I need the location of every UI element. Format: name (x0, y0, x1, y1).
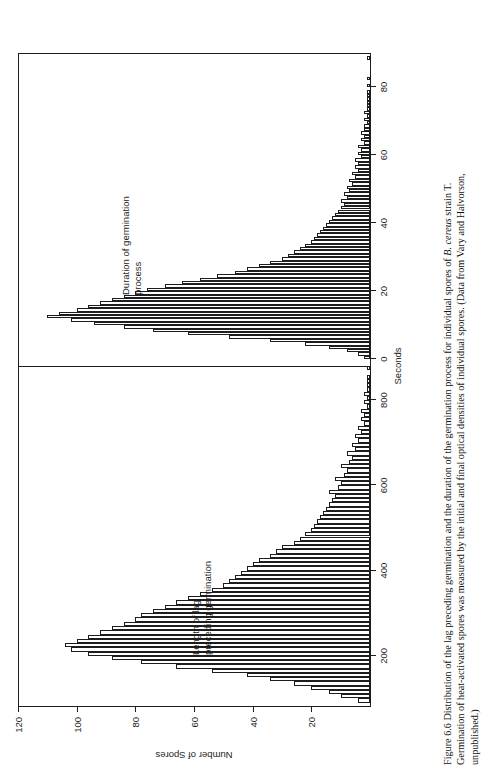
histogram-bar (326, 223, 370, 226)
histogram-bar (314, 524, 370, 528)
histogram-bar (112, 656, 370, 660)
x-tick (371, 655, 376, 656)
y-tick (18, 707, 19, 712)
histogram-bar (355, 434, 370, 438)
histogram-bar (276, 549, 370, 553)
x-tick-label: 800 (378, 392, 389, 408)
histogram-bar (200, 592, 370, 596)
histogram-bar (361, 155, 370, 158)
panel-duration-bars (18, 53, 370, 366)
histogram-bar (347, 349, 370, 352)
histogram-bar (311, 528, 370, 532)
histogram-bar (320, 230, 370, 233)
histogram-bar (305, 532, 370, 536)
x-tick-label: 80 (378, 82, 389, 93)
histogram-bar (326, 507, 370, 511)
histogram-bar (229, 335, 370, 338)
histogram-bar (323, 511, 370, 515)
histogram-bar (311, 240, 370, 243)
histogram-bar (329, 502, 370, 506)
histogram-bar (141, 660, 370, 664)
histogram-bar (358, 169, 370, 172)
histogram-bar (344, 473, 370, 477)
histogram-bar (112, 626, 370, 630)
histogram-bar (124, 622, 370, 626)
panel-duration (18, 53, 370, 366)
x-tick (371, 399, 376, 400)
y-tick (194, 707, 195, 712)
histogram-bar (358, 145, 370, 148)
histogram-bar (247, 566, 370, 570)
histogram-bar (94, 322, 370, 325)
histogram-bar (332, 216, 370, 219)
histogram-bar (361, 417, 370, 421)
histogram-bar (259, 264, 370, 267)
histogram-bar (311, 686, 370, 690)
histogram-bar (124, 295, 370, 298)
histogram-bar (347, 451, 370, 455)
histogram-bar (347, 468, 370, 472)
histogram-bar (317, 233, 370, 236)
histogram-bar (305, 244, 370, 247)
histogram-bar (355, 447, 370, 451)
histogram-bar (112, 298, 370, 301)
histogram-bar (352, 456, 370, 460)
histogram-bar (335, 494, 370, 498)
panel-lag-title: Length of lag preceding germination (190, 561, 214, 655)
histogram-bar (358, 352, 370, 355)
plot-area: 20040060080002040608020406080100120 Numb… (0, 0, 430, 765)
x-axis-line (370, 53, 371, 707)
histogram-bar (347, 196, 370, 199)
histogram-bar (341, 694, 370, 698)
histogram-bar (352, 443, 370, 447)
caption-line-2: Germination of heat-activated spores was… (454, 13, 467, 765)
histogram-bar (71, 318, 370, 321)
histogram-bar (300, 247, 370, 250)
histogram-bar (153, 329, 370, 332)
histogram-bar (323, 227, 370, 230)
histogram-bar (147, 288, 370, 291)
histogram-bar (77, 639, 370, 643)
y-tick (77, 707, 78, 712)
histogram-bar (188, 596, 370, 600)
histogram-bar (314, 237, 370, 240)
y-tick (253, 707, 254, 712)
panel-duration-title: Duration of germination process (120, 196, 144, 295)
histogram-bar (355, 158, 370, 161)
histogram-bar (352, 172, 370, 175)
histogram-bar (335, 477, 370, 481)
caption-line-3: unpublished.) (468, 13, 481, 765)
histogram-bar (349, 460, 370, 464)
y-tick-label: 100 (71, 717, 82, 733)
histogram-bar (341, 481, 370, 485)
histogram-bar (212, 669, 370, 673)
caption-line-1: Figure 6.6 Distribution of the lag prece… (441, 13, 454, 765)
histogram-bar (329, 690, 370, 694)
x-tick-label: 20 (378, 286, 389, 297)
histogram-bar (247, 267, 370, 270)
histogram-bar (153, 609, 370, 613)
y-tick-label: 40 (247, 717, 258, 728)
histogram-bar (355, 176, 370, 179)
histogram-bar (88, 635, 370, 639)
histogram-bar (288, 254, 370, 257)
x-tick-label: 40 (378, 218, 389, 229)
x-tick (371, 570, 376, 571)
histogram-bar (182, 281, 370, 284)
histogram-bar (355, 165, 370, 168)
histogram-bar (344, 193, 370, 196)
x-tick (371, 484, 376, 485)
histogram-bar (77, 308, 370, 311)
panel-duration-title-line1: Duration of germination (120, 196, 132, 295)
histogram-bar (235, 271, 370, 274)
x-axis-title: Seconds (392, 348, 403, 385)
histogram-bar (270, 554, 370, 558)
histogram-bar (361, 409, 370, 413)
histogram-bar (59, 312, 370, 315)
histogram-bar (188, 332, 370, 335)
histogram-bar (341, 206, 370, 209)
histogram-bar (282, 545, 370, 549)
histogram-bar (88, 305, 370, 308)
histogram-bar (124, 325, 370, 328)
species-name: B. cereus (442, 218, 453, 256)
